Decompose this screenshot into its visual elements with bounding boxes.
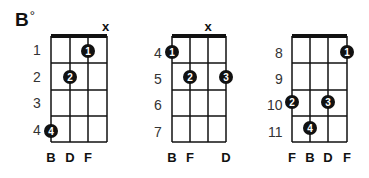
- svg-text:2: 2: [289, 97, 295, 108]
- finger-dot: 1: [81, 44, 95, 58]
- svg-text:1: 1: [169, 47, 175, 58]
- string-label: F: [186, 150, 194, 165]
- finger-dot: 4: [44, 124, 58, 138]
- svg-text:2: 2: [187, 72, 193, 83]
- finger-dot: 2: [63, 70, 77, 84]
- fret-number: 4: [33, 122, 41, 138]
- svg-text:3: 3: [325, 97, 331, 108]
- svg-text:2: 2: [67, 72, 73, 83]
- fret-number: 1: [33, 42, 41, 58]
- fret-number: 3: [33, 95, 41, 111]
- muted-string-marker: x: [204, 19, 212, 34]
- muted-string-marker: x: [102, 19, 110, 34]
- finger-dot: 4: [303, 121, 317, 135]
- finger-dot: 2: [285, 95, 299, 109]
- fret-number: 9: [275, 71, 283, 87]
- fretboard-grid: [51, 36, 107, 142]
- chord-diagram-2: 4 5 6 7 x 1 2 3 B F D: [154, 19, 233, 165]
- chord-diagram-3: 8 9 10 11 1 2 3 4 F B D F: [267, 36, 354, 165]
- string-label: F: [288, 150, 296, 165]
- svg-text:3: 3: [223, 72, 229, 83]
- string-label: F: [343, 150, 351, 165]
- fret-number: 2: [33, 69, 41, 85]
- svg-text:1: 1: [85, 46, 91, 57]
- svg-text:4: 4: [307, 123, 313, 134]
- finger-dot: 1: [340, 45, 354, 59]
- fretboard-grid: [172, 36, 226, 142]
- finger-dot: 1: [165, 45, 179, 59]
- string-label: B: [167, 150, 176, 165]
- svg-text:4: 4: [48, 126, 54, 137]
- chord-diagram-1: 1 2 3 4 x 1 2 4 B D F: [33, 19, 110, 165]
- chord-diagrams: 1 2 3 4 x 1 2 4 B D F 4 5 6 7 x 1 2 3 B: [0, 0, 369, 178]
- string-label: D: [323, 150, 332, 165]
- fret-number: 8: [275, 45, 283, 61]
- finger-dot: 2: [183, 70, 197, 84]
- fretboard-grid: [292, 36, 347, 142]
- finger-dot: 3: [321, 95, 335, 109]
- string-label: B: [46, 150, 55, 165]
- string-label: D: [65, 150, 74, 165]
- svg-text:1: 1: [344, 47, 350, 58]
- finger-dot: 3: [219, 70, 233, 84]
- fret-number: 6: [154, 97, 162, 113]
- fret-number: 7: [154, 124, 162, 140]
- string-label: B: [305, 150, 314, 165]
- fret-number: 5: [154, 71, 162, 87]
- fret-number: 11: [268, 124, 283, 140]
- string-label: D: [221, 150, 230, 165]
- fret-number: 10: [267, 97, 283, 113]
- fret-number: 4: [154, 45, 162, 61]
- string-label: F: [84, 150, 92, 165]
